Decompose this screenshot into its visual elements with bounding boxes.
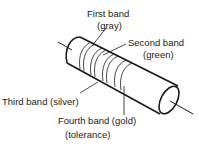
resistor-drawing: First band (gray) Second band (green) Th… — [0, 0, 199, 144]
band-1b — [83, 44, 95, 71]
first-band-label: First band — [87, 8, 129, 19]
third-band-label: Third band (silver) — [2, 96, 79, 107]
band-4b — [120, 63, 132, 90]
resistor-diagram: First band (gray) Second band (green) Th… — [0, 0, 199, 144]
second-band-color-label: (green) — [143, 49, 174, 60]
second-band-label: Second band — [128, 37, 184, 48]
third-band-leader — [80, 82, 98, 93]
first-band-color-label: (gray) — [97, 20, 122, 31]
fourth-band-label: Fourth band (gold) — [58, 115, 136, 126]
fourth-band-note-label: (tolerance) — [65, 129, 110, 140]
